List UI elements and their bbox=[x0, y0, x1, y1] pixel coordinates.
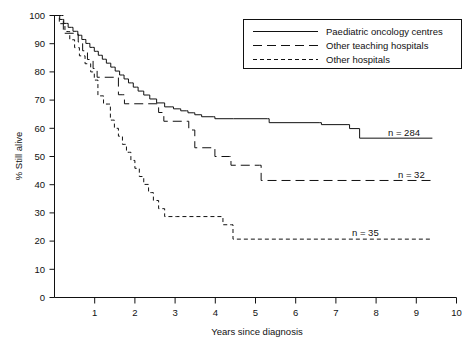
curve-annotations: n = 284 n = 32 n = 35 bbox=[352, 127, 425, 238]
annotation-n-35: n = 35 bbox=[352, 227, 379, 238]
y-tick-label-70: 70 bbox=[34, 94, 45, 105]
x-tick-label-10: 10 bbox=[451, 307, 462, 318]
x-tick-label-3: 3 bbox=[172, 307, 177, 318]
survival-chart-figure: 0 10 20 30 40 50 60 70 80 90 100 1 2 bbox=[0, 0, 476, 351]
annotation-n-32: n = 32 bbox=[398, 169, 425, 180]
legend: Paediatric oncology centres Other teachi… bbox=[244, 20, 462, 69]
x-tick-label-8: 8 bbox=[373, 307, 378, 318]
y-axis-title: % Still alive bbox=[13, 132, 24, 181]
x-axis-title: Years since diagnosis bbox=[211, 326, 303, 337]
legend-label-other-teaching-hospitals: Other teaching hospitals bbox=[326, 40, 429, 51]
y-tick-label-20: 20 bbox=[34, 235, 45, 246]
legend-label-other-hospitals: Other hospitals bbox=[326, 54, 390, 65]
x-axis-ticks: 1 2 3 4 5 6 7 8 9 10 bbox=[92, 298, 462, 319]
x-tick-label-1: 1 bbox=[92, 307, 97, 318]
y-tick-label-60: 60 bbox=[34, 123, 45, 134]
annotation-n-284: n = 284 bbox=[388, 127, 420, 138]
legend-label-paediatric-oncology-centres: Paediatric oncology centres bbox=[326, 26, 443, 37]
x-tick-label-5: 5 bbox=[253, 307, 258, 318]
y-tick-label-50: 50 bbox=[34, 151, 45, 162]
x-tick-label-6: 6 bbox=[293, 307, 298, 318]
y-tick-label-90: 90 bbox=[34, 38, 45, 49]
y-tick-label-100: 100 bbox=[29, 10, 45, 21]
y-tick-label-40: 40 bbox=[34, 179, 45, 190]
y-axis-ticks: 0 10 20 30 40 50 60 70 80 90 100 bbox=[29, 10, 54, 303]
y-tick-label-10: 10 bbox=[34, 264, 45, 275]
y-tick-label-80: 80 bbox=[34, 66, 45, 77]
y-tick-label-30: 30 bbox=[34, 207, 45, 218]
x-tick-label-9: 9 bbox=[414, 307, 419, 318]
y-tick-label-0: 0 bbox=[40, 292, 45, 303]
x-tick-label-7: 7 bbox=[333, 307, 338, 318]
x-tick-label-4: 4 bbox=[213, 307, 218, 318]
x-tick-label-2: 2 bbox=[132, 307, 137, 318]
chart-svg: 0 10 20 30 40 50 60 70 80 90 100 1 2 bbox=[0, 0, 476, 351]
